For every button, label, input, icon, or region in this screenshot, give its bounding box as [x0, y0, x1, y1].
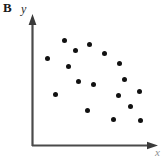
data-point — [116, 93, 121, 98]
data-point — [87, 42, 92, 47]
data-point — [137, 89, 142, 94]
scatter-plot-figure: B y x — [0, 0, 164, 160]
data-point — [53, 92, 58, 97]
data-point — [128, 104, 133, 109]
data-point — [62, 38, 67, 43]
data-point — [45, 56, 50, 61]
scatter-points-layer — [0, 0, 164, 160]
data-point — [111, 117, 116, 122]
data-point — [91, 82, 96, 87]
data-point — [138, 118, 143, 123]
data-point — [102, 51, 107, 56]
data-point — [76, 79, 81, 84]
data-point — [122, 77, 127, 82]
data-point — [73, 48, 78, 53]
data-point — [117, 61, 122, 66]
x-axis-label: x — [155, 146, 160, 158]
data-point — [85, 108, 90, 113]
data-point — [66, 64, 71, 69]
